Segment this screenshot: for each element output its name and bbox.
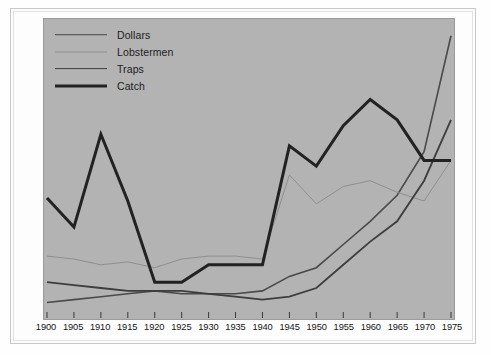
x-tick-label: 1900	[36, 322, 56, 332]
legend-label-catch: Catch	[117, 80, 145, 92]
legend-swatch-catch	[53, 80, 109, 92]
x-tick-label: 1970	[415, 322, 435, 332]
x-tick-label: 1915	[117, 322, 137, 332]
legend-swatch-traps	[53, 63, 109, 75]
x-tick-label: 1950	[307, 322, 327, 332]
series-line-catch	[47, 100, 451, 283]
x-tick-label: 1975	[442, 322, 462, 332]
x-tick-label: 1940	[252, 322, 272, 332]
figure-page: Dollars Lobstermen Traps Catch 190019051…	[0, 0, 491, 355]
legend-label-traps: Traps	[117, 63, 144, 75]
legend-item-dollars: Dollars	[53, 26, 223, 43]
x-tick-label: 1925	[171, 322, 191, 332]
chart-legend: Dollars Lobstermen Traps Catch	[53, 26, 223, 94]
x-tick-label: 1955	[334, 322, 354, 332]
legend-swatch-dollars	[53, 29, 109, 41]
legend-label-dollars: Dollars	[117, 29, 150, 41]
legend-item-traps: Traps	[53, 60, 223, 77]
legend-swatch-lobstermen	[53, 46, 109, 58]
x-tick-label: 1945	[279, 322, 299, 332]
x-tick-label: 1935	[225, 322, 245, 332]
x-axis-tick-labels: 1900190519101915192019251930193519401945…	[43, 322, 455, 338]
legend-item-catch: Catch	[53, 77, 223, 94]
x-tick-label: 1905	[63, 322, 83, 332]
series-line-lobstermen	[47, 160, 451, 267]
series-line-traps	[47, 120, 451, 300]
x-tick-label: 1920	[144, 322, 164, 332]
plot-panel: Dollars Lobstermen Traps Catch	[43, 18, 455, 320]
x-tick-label: 1960	[361, 322, 381, 332]
x-tick-label: 1930	[198, 322, 218, 332]
legend-label-lobstermen: Lobstermen	[117, 46, 173, 58]
legend-item-lobstermen: Lobstermen	[53, 43, 223, 60]
x-tick-label: 1910	[90, 322, 110, 332]
x-tick-label: 1965	[388, 322, 408, 332]
